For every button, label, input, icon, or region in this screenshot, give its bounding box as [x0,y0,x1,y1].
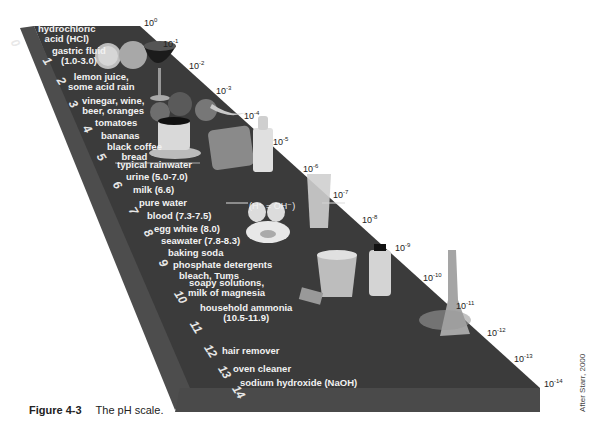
conc-label-10: 10-10 [423,272,442,283]
milk-bottle-icon [253,116,273,172]
label-baking-soda: baking soda [168,248,223,258]
conc-label-9: 10-9 [395,242,410,253]
conc-label-4: 10-4 [244,110,259,121]
label-egg-white: egg white (8.0) [154,224,220,234]
conc-label-12: 10-12 [487,327,506,338]
ph-slab-graphic [0,0,609,440]
neutral-equation: (H⁺ = OH⁻) [249,201,295,211]
bread-icon [207,125,254,170]
figure-number: Figure 4-3 [29,404,82,416]
conc-label-14: 10-14 [544,378,563,389]
label-typical-rainwater: typical rainwater [117,160,192,170]
figure-caption: Figure 4-3The pH scale. [29,404,163,416]
ph-scale-diagram: 0 1 2 3 4 5 6 7 8 9 10 11 12 13 14 hydro… [0,0,609,440]
conc-label-7: 10-7 [333,189,348,200]
conc-label-0: 100 [144,17,157,28]
label-oven-cleaner: oven cleaner [233,364,291,374]
label-hair-remover: hair remover [222,346,280,356]
label-urine: urine (5.0-7.0) [126,172,188,182]
figure-caption-text: The pH scale. [96,404,164,416]
orange-icon [119,41,147,69]
label-pure-water: pure water [139,198,187,208]
conc-label-2: 10-2 [189,60,204,71]
detergent-bottle-icon [369,244,391,296]
water-glass-icon [307,174,331,228]
conc-label-3: 10-3 [216,85,231,96]
conc-label-13: 10-13 [514,353,533,364]
label-household-ammonia: household ammonia (10.5-11.9) [200,303,292,323]
conc-label-8: 10-8 [362,214,377,225]
label-phosphate-detergents: phosphate detergents [173,260,272,270]
conc-label-5: 10-5 [273,136,288,147]
conc-label-11: 10-11 [456,300,474,311]
conc-label-6: 10-6 [303,163,318,174]
label-gastric-fluid: gastric fluid (1.0-3.0) [52,46,106,66]
label-hydrochloric-acid: hydrochloric acid (HCl) [38,24,96,44]
label-sodium-hydroxide: sodium hydroxide (NaOH) [240,378,357,388]
conc-label-1: 10-1 [163,38,178,49]
label-bananas: bananas [101,131,140,141]
label-seawater: seawater (7.8-8.3) [161,236,240,246]
label-lemon-juice: lemon juice, some acid rain [68,72,135,92]
label-vinegar-wine: vinegar, wine, beer, oranges [82,96,144,116]
label-blood: blood (7.3-7.5) [147,211,211,221]
label-tomatoes: tomatoes [95,118,137,128]
label-milk: milk (6.6) [133,185,174,195]
figure-credit: After Starr, 2000 [578,354,587,412]
label-soapy-solutions: soapy solutions, milk of magnesia [188,278,265,298]
